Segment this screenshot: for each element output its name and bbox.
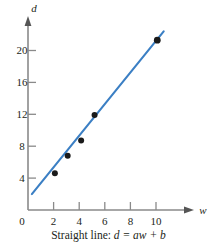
data-point <box>78 138 84 144</box>
data-point <box>52 170 58 176</box>
x-tick-label-4: 8 <box>128 215 134 227</box>
y-tick-label-2: 8 <box>19 140 25 152</box>
data-points <box>52 37 161 177</box>
x-tick-label-2: 4 <box>76 215 82 227</box>
chart-figure: 0 4 8 12 16 20 2 4 6 8 10 d w Straight l… <box>0 0 217 251</box>
data-point <box>65 153 71 159</box>
data-point <box>154 37 161 44</box>
caption-equation: d = aw + b <box>114 229 166 241</box>
y-tick-marks <box>28 51 36 179</box>
x-tick-marks <box>54 202 156 210</box>
caption-prefix: Straight line: <box>51 229 111 241</box>
x-tick-label-1: 2 <box>51 215 57 227</box>
y-tick-label-4: 16 <box>17 76 29 88</box>
x-axis-label: w <box>199 204 207 216</box>
y-tick-label-5: 20 <box>17 44 29 56</box>
x-axis <box>28 207 194 214</box>
y-axis-label: d <box>31 2 37 14</box>
x-tick-label-5: 10 <box>151 215 163 227</box>
y-tick-label-0: 0 <box>19 215 25 227</box>
y-tick-label-1: 4 <box>19 172 25 184</box>
chart-caption: Straight line: d = aw + b <box>0 229 217 241</box>
data-point <box>92 112 98 118</box>
fit-line <box>32 31 164 194</box>
scatter-plot: 0 4 8 12 16 20 2 4 6 8 10 d w <box>0 0 217 251</box>
x-tick-label-3: 6 <box>102 215 108 227</box>
y-tick-label-3: 12 <box>17 108 28 120</box>
